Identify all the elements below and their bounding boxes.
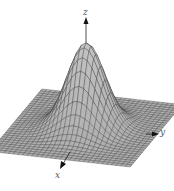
z-axis-label: z	[83, 7, 88, 17]
y-axis-label: y	[160, 127, 165, 137]
z-axis	[84, 17, 89, 43]
x-axis-label: x	[55, 170, 60, 180]
surface-plot	[0, 0, 174, 191]
surface-mesh	[0, 43, 174, 167]
